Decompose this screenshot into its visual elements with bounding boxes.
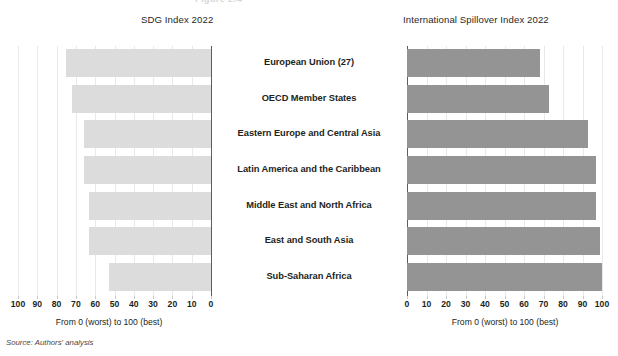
source-note: Source: Authors' analysis [6,338,93,347]
category-label: Sub-Saharan Africa [216,271,402,281]
bar [84,156,211,184]
left-chart-axis-caption: From 0 (worst) to 100 (best) [6,317,212,327]
right-chart-tick-labels: 0102030405060708090100 [407,299,603,312]
tick-label-20: 20 [441,299,451,309]
bar [407,120,588,148]
category-label: Middle East and North Africa [216,200,402,210]
bar [66,49,211,77]
right-chart-axis-caption: From 0 (worst) to 100 (best) [407,317,603,327]
tick-label-90: 90 [578,299,588,309]
left-chart-bars [6,46,212,297]
tick-label-0: 0 [209,299,214,309]
tick-label-30: 30 [461,299,471,309]
tick-label-60: 60 [519,299,529,309]
left-chart-plot-area [6,46,212,297]
category-label: East and South Asia [216,235,402,245]
bar [407,227,600,255]
bar [407,192,596,220]
category-label: Latin America and the Caribbean [216,164,402,174]
tick-label-50: 50 [110,299,120,309]
tick-label-100: 100 [11,299,25,309]
tick-label-20: 20 [168,299,178,309]
tick-label-90: 90 [33,299,43,309]
category-label: OECD Member States [216,93,402,103]
right-chart-bars [407,46,603,297]
bar [407,156,596,184]
left-chart-title: SDG Index 2022 [141,14,213,25]
tick-label-80: 80 [558,299,568,309]
right-chart-title: International Spillover Index 2022 [403,14,549,25]
tick-label-50: 50 [500,299,510,309]
category-label: European Union (27) [216,57,402,67]
tick-label-40: 40 [480,299,490,309]
tick-label-30: 30 [148,299,158,309]
category-label-column: European Union (27)OECD Member StatesEas… [216,46,402,297]
tick-label-60: 60 [90,299,100,309]
tick-label-0: 0 [405,299,410,309]
tick-label-10: 10 [187,299,197,309]
left-chart-tick-labels: 1009080706050403020100 [6,299,212,312]
tick-label-10: 10 [422,299,432,309]
tick-label-80: 80 [52,299,62,309]
tick-label-70: 70 [71,299,81,309]
bar [407,263,602,291]
tick-label-70: 70 [539,299,549,309]
bar [407,85,549,113]
category-label: Eastern Europe and Central Asia [216,128,402,138]
tick-label-100: 100 [595,299,609,309]
right-chart-plot-area [407,46,603,297]
cutoff-header-text: Figure 2.4 [195,0,242,4]
bar [407,49,540,77]
bar [109,263,211,291]
bar [72,85,211,113]
cutoff-header-sliver: Figure 2.4 [0,0,618,7]
tick-label-40: 40 [129,299,139,309]
bar [84,120,211,148]
bar [89,227,211,255]
bar [89,192,211,220]
